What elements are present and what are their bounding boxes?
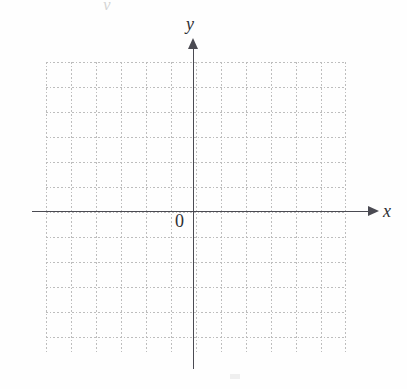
grid-vertical-rule: [296, 62, 297, 352]
grid-vertical-rule: [221, 62, 222, 352]
origin-label: 0: [175, 211, 184, 232]
grid-vertical-rule: [171, 62, 172, 352]
y-axis-label: y: [186, 14, 194, 35]
x-axis-line: [32, 211, 370, 212]
grid-horizontal-rule: [46, 162, 346, 163]
y-axis-line: [193, 48, 194, 369]
grid-horizontal-rule: [46, 337, 346, 338]
grid-vertical-rule: [146, 62, 147, 352]
grid-vertical-rule: [196, 62, 197, 352]
scan-artifact-glyph: y: [103, 0, 119, 10]
grid-horizontal-rule: [46, 212, 346, 213]
grid-horizontal-rule: [46, 87, 346, 88]
grid-horizontal-rule: [46, 312, 346, 313]
grid-vertical-rule: [246, 62, 247, 352]
grid-vertical-rule: [46, 62, 47, 352]
grid-horizontal-rule: [46, 262, 346, 263]
dotted-grid: [46, 62, 346, 352]
grid-vertical-rule: [271, 62, 272, 352]
grid-horizontal-rule: [46, 62, 346, 63]
y-axis-arrow-icon: [188, 38, 198, 49]
grid-vertical-rule: [71, 62, 72, 352]
grid-horizontal-rule: [46, 187, 346, 188]
grid-horizontal-rule: [46, 112, 346, 113]
grid-vertical-rule: [121, 62, 122, 352]
grid-vertical-rule: [96, 62, 97, 352]
grid-horizontal-rule: [46, 237, 346, 238]
x-axis-label: x: [383, 201, 391, 222]
grid-vertical-rule: [321, 62, 322, 352]
grid-horizontal-rule: [46, 137, 346, 138]
grid-vertical-rule: [345, 62, 346, 352]
x-axis-arrow-icon: [368, 206, 379, 216]
grid-horizontal-rule: [46, 287, 346, 288]
scan-artifact-smudge: [230, 374, 240, 379]
figure-canvas: y x y 0: [0, 0, 407, 389]
